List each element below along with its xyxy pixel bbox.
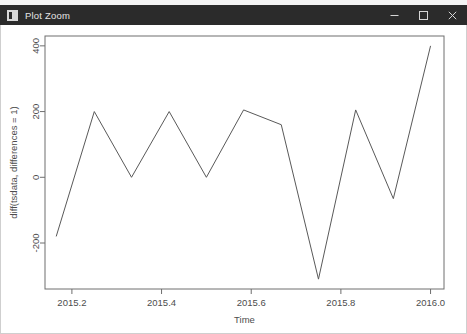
x-axis-tick-label: 2015.6 bbox=[237, 297, 266, 308]
maximize-icon bbox=[418, 10, 429, 21]
minimize-button[interactable] bbox=[380, 5, 409, 25]
plot-frame bbox=[45, 36, 444, 289]
y-axis-title: diff(tsdata, differences = 1) bbox=[8, 106, 19, 218]
window-title: Plot Zoom bbox=[25, 10, 70, 21]
y-axis-tick-label: 200 bbox=[30, 104, 41, 120]
y-axis-tick-label: 400 bbox=[30, 38, 41, 54]
x-axis-title: Time bbox=[234, 314, 255, 325]
y-axis-tick-label: -200 bbox=[30, 233, 41, 252]
window-titlebar[interactable]: Plot Zoom bbox=[0, 5, 467, 25]
plot-zoom-window: Plot Zoom -20002004002015.22015 bbox=[0, 0, 467, 334]
minimize-icon bbox=[389, 10, 400, 21]
maximize-button[interactable] bbox=[409, 5, 438, 25]
x-axis-tick-label: 2015.4 bbox=[147, 297, 176, 308]
x-axis-tick-label: 2015.2 bbox=[57, 297, 86, 308]
close-icon bbox=[447, 10, 458, 21]
y-axis-tick-label: 0 bbox=[30, 175, 41, 180]
plot-window-icon bbox=[7, 10, 18, 21]
plot-canvas-area[interactable]: -20002004002015.22015.42015.62015.82016.… bbox=[0, 25, 467, 334]
window-controls bbox=[380, 5, 467, 25]
time-series-plot: -20002004002015.22015.42015.62015.82016.… bbox=[1, 25, 466, 332]
x-axis-tick-label: 2016.0 bbox=[416, 297, 445, 308]
x-axis-tick-label: 2015.8 bbox=[326, 297, 355, 308]
close-button[interactable] bbox=[438, 5, 467, 25]
data-series-line bbox=[56, 46, 430, 279]
